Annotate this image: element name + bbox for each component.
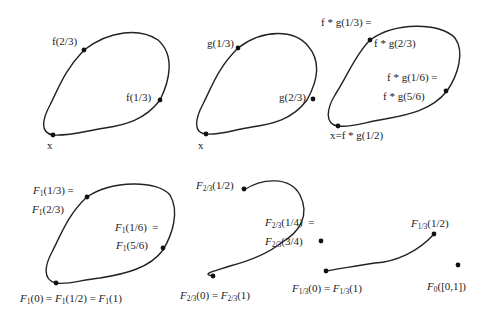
label-g-1-3: g(1/3) bbox=[207, 38, 234, 49]
label-fg-5-6: f * g(5/6) bbox=[383, 91, 425, 102]
label-F1-2-3: F1(2/3) bbox=[32, 204, 64, 215]
fg-16-point bbox=[444, 89, 449, 94]
F13-path-curve bbox=[326, 234, 434, 271]
label-g-2-3: g(2/3) bbox=[279, 92, 306, 103]
F23-0-point bbox=[211, 274, 216, 279]
label-F23-1-2: F2/3(1/2) bbox=[196, 180, 234, 191]
F1-13-point bbox=[85, 195, 90, 200]
f-x-point bbox=[51, 133, 56, 138]
fg-x-point bbox=[336, 124, 341, 129]
label-F23-base: F2/3(0) = F2/3(1) bbox=[180, 290, 250, 301]
label-F0: F0([0,1]) bbox=[427, 281, 466, 292]
g-23-point bbox=[311, 97, 316, 102]
label-x-1: x bbox=[47, 140, 53, 151]
label-fg-1-3: f * g(1/3) = bbox=[321, 17, 372, 28]
F1-loop-curve bbox=[46, 184, 175, 283]
g-13-point bbox=[236, 46, 241, 51]
label-x-2: x bbox=[198, 140, 204, 151]
F23-12-point bbox=[242, 187, 247, 192]
label-F1-1-3: F1(1/3) = bbox=[33, 185, 74, 196]
label-f-2-3: f(2/3) bbox=[52, 36, 77, 47]
F13-0-point bbox=[324, 269, 329, 274]
label-fg-1-6: f * g(1/6) = bbox=[387, 72, 438, 83]
F13-12-point bbox=[432, 232, 437, 237]
label-f-1-3: f(1/3) bbox=[126, 92, 151, 103]
f-13-point bbox=[158, 98, 163, 103]
label-F13-base: F1/3(0) = F1/3(1) bbox=[292, 283, 362, 294]
diagram-curves bbox=[0, 0, 495, 318]
F23-path-curve bbox=[208, 181, 304, 276]
label-F13-1-2: F1/3(1/2) bbox=[411, 218, 449, 229]
homotopy-diagram: f(2/3) f(1/3) x g(1/3) g(2/3) x f * g(1/… bbox=[0, 0, 495, 318]
label-fg-2-3: f * g(2/3) bbox=[374, 38, 416, 49]
label-fg-base: x=f * g(1/2) bbox=[330, 130, 383, 141]
F23-14-point bbox=[319, 239, 324, 244]
F0-point bbox=[456, 263, 461, 268]
F1-0-point bbox=[54, 281, 59, 286]
f-23-point bbox=[82, 48, 87, 53]
label-F1-5-6: F1(5/6) bbox=[116, 240, 148, 251]
f-loop-curve bbox=[44, 33, 170, 136]
label-F23-3-4: F2/3(3/4) bbox=[265, 236, 303, 247]
label-F1-base: F1(0) = F1(1/2) = F1(1) bbox=[20, 293, 122, 304]
label-F1-1-6: F1(1/6) = bbox=[115, 222, 159, 233]
fg-13-point bbox=[368, 38, 373, 43]
g-x-point bbox=[204, 132, 209, 137]
F1-16-point bbox=[161, 246, 166, 251]
label-F23-1-4: F2/3(1/4) = bbox=[265, 217, 314, 228]
